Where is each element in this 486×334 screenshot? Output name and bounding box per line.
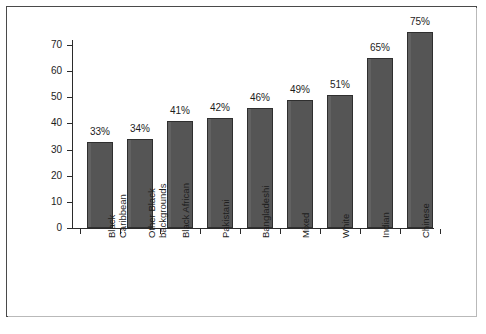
- bar-value-label: 34%: [116, 124, 164, 134]
- category-label-line: Bangladeshi: [260, 186, 271, 238]
- bar-highlight: [328, 96, 331, 227]
- category-label: Chinese: [420, 203, 431, 238]
- y-tick-label: 70: [40, 40, 62, 50]
- category-label-line: Indian: [380, 212, 391, 238]
- category-label: Mixed: [300, 213, 311, 238]
- category-label: Black African: [180, 183, 191, 238]
- category-label: White: [340, 214, 351, 238]
- category-label: Indian: [380, 212, 391, 238]
- y-tick: [67, 97, 72, 98]
- bar-highlight: [88, 143, 91, 227]
- category-label-line: Caribbean: [117, 194, 128, 238]
- x-tick: [80, 229, 81, 234]
- x-tick: [200, 229, 201, 234]
- bar-highlight: [168, 122, 171, 227]
- bar-value-label: 65%: [356, 43, 404, 53]
- y-tick-label: 40: [40, 118, 62, 128]
- category-label: Other Blackbackgrounds: [146, 184, 168, 238]
- bar: [367, 58, 393, 228]
- y-tick-label: 60: [40, 66, 62, 76]
- y-tick-label: 20: [40, 171, 62, 181]
- y-tick-label: 50: [40, 92, 62, 102]
- category-label-line: Black African: [180, 183, 191, 238]
- bar: [407, 32, 433, 228]
- x-tick: [360, 229, 361, 234]
- category-label-line: Chinese: [420, 203, 431, 238]
- bar-highlight: [128, 140, 131, 227]
- category-label-line: Mixed: [300, 213, 311, 238]
- bar-value-label: 42%: [196, 103, 244, 113]
- bar-highlight: [408, 33, 411, 227]
- y-tick: [67, 150, 72, 151]
- y-tick: [67, 45, 72, 46]
- bar-highlight: [368, 59, 371, 227]
- category-label-line: White: [340, 214, 351, 238]
- bar: [327, 95, 353, 228]
- plot-area: 010203040506070 33%34%41%42%46%49%51%65%…: [0, 0, 486, 334]
- y-tick-label: 0: [40, 223, 62, 233]
- bar-value-label: 51%: [316, 80, 364, 90]
- x-tick: [400, 229, 401, 234]
- y-tick: [67, 123, 72, 124]
- y-tick: [67, 228, 72, 229]
- bar-highlight: [288, 101, 291, 227]
- bar: [287, 100, 313, 228]
- x-tick: [440, 229, 441, 234]
- y-tick-label: 30: [40, 145, 62, 155]
- y-tick: [67, 176, 72, 177]
- category-label-line: Other Black: [146, 184, 157, 238]
- y-axis-line: [72, 40, 73, 229]
- category-label: BlackCaribbean: [106, 194, 128, 238]
- category-label-line: Black: [106, 194, 117, 238]
- category-label: Pakistani: [220, 199, 231, 238]
- y-tick: [67, 71, 72, 72]
- chart-figure: 010203040506070 33%34%41%42%46%49%51%65%…: [0, 0, 486, 334]
- bar-highlight: [248, 109, 251, 227]
- bar-highlight: [208, 119, 211, 227]
- category-label-line: Pakistani: [220, 199, 231, 238]
- y-tick: [67, 202, 72, 203]
- y-tick-label: 10: [40, 197, 62, 207]
- category-label: Bangladeshi: [260, 186, 271, 238]
- bar-value-label: 75%: [396, 17, 444, 27]
- x-tick: [280, 229, 281, 234]
- x-tick: [320, 229, 321, 234]
- x-tick: [240, 229, 241, 234]
- category-label-line: backgrounds: [157, 184, 168, 238]
